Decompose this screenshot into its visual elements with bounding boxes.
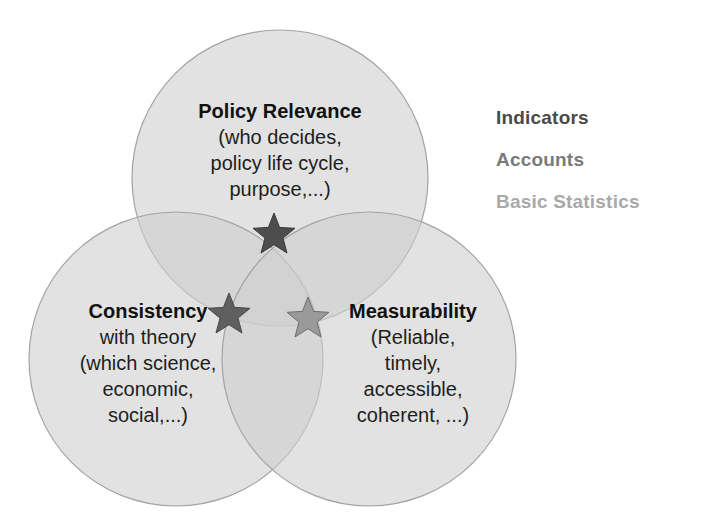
consistency-line: (which science,: [48, 350, 248, 376]
legend: Indicators Accounts Basic Statistics: [496, 108, 640, 234]
measurability-line: (Reliable,: [318, 324, 508, 350]
legend-item-accounts: Accounts: [496, 150, 640, 169]
venn-diagram: Policy Relevance (who decides, policy li…: [0, 0, 716, 525]
label-consistency: Consistency with theory (which science, …: [48, 298, 248, 428]
policy-relevance-title: Policy Relevance: [168, 98, 392, 124]
measurability-line: coherent, ...): [318, 402, 508, 428]
measurability-title: Measurability: [318, 298, 508, 324]
consistency-line: with theory: [48, 324, 248, 350]
venn-circles: [0, 0, 716, 525]
label-measurability: Measurability (Reliable, timely, accessi…: [318, 298, 508, 428]
policy-relevance-line: (who decides,: [168, 124, 392, 150]
policy-relevance-line: policy life cycle,: [168, 150, 392, 176]
legend-item-indicators: Indicators: [496, 108, 640, 127]
policy-relevance-line: purpose,...): [168, 176, 392, 202]
consistency-line: social,...): [48, 402, 248, 428]
consistency-line: economic,: [48, 376, 248, 402]
label-policy-relevance: Policy Relevance (who decides, policy li…: [168, 98, 392, 202]
measurability-line: accessible,: [318, 376, 508, 402]
consistency-title: Consistency: [48, 298, 248, 324]
measurability-line: timely,: [318, 350, 508, 376]
legend-item-basic-statistics: Basic Statistics: [496, 192, 640, 211]
